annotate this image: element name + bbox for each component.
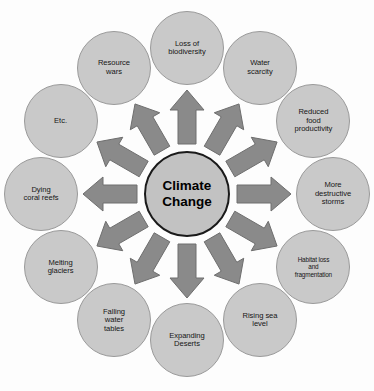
arrow-to-expanding-deserts (170, 244, 204, 298)
node-rising-sea-level[interactable]: Rising sea level (223, 283, 297, 357)
hub-node-label: Climate Change (159, 178, 215, 209)
node-label-expanding-deserts: Expanding Deserts (166, 332, 207, 349)
arrow-to-dying-coral-reefs (83, 177, 137, 211)
arrow-to-more-destructive-storms (237, 177, 291, 211)
node-etc[interactable]: Etc. (24, 84, 98, 158)
arrow-to-reduced-food-productivity (226, 137, 277, 177)
node-reduced-food-productivity[interactable]: Reduced food productivity (276, 84, 350, 158)
node-water-scarcity[interactable]: Water scarcity (223, 31, 297, 105)
node-more-destructive-storms[interactable]: More destructive storms (296, 157, 370, 231)
node-dying-coral-reefs[interactable]: Dying coral reefs (4, 157, 78, 231)
node-loss-of-biodiversity[interactable]: Loss of biodiversity (150, 11, 224, 85)
arrow-to-rising-sea-level (204, 233, 244, 284)
arrow-to-falling-water-tables (130, 233, 170, 284)
arrow-to-melting-glaciers (97, 211, 148, 251)
node-label-more-destructive-storms: More destructive storms (312, 181, 354, 207)
node-label-loss-of-biodiversity: Loss of biodiversity (165, 40, 208, 57)
node-label-habitat-loss-fragmentation: Habitat loss and fragmentation (292, 256, 335, 278)
arrow-to-water-scarcity (204, 104, 244, 155)
hub-node-climate-change[interactable]: Climate Change (144, 151, 230, 237)
node-label-dying-coral-reefs: Dying coral reefs (21, 186, 62, 203)
node-habitat-loss-fragmentation[interactable]: Habitat loss and fragmentation (276, 230, 350, 304)
node-label-falling-water-tables: Falling water tables (100, 308, 128, 334)
node-falling-water-tables[interactable]: Falling water tables (77, 283, 151, 357)
node-melting-glaciers[interactable]: Melting glaciers (24, 230, 98, 304)
node-label-etc: Etc. (51, 117, 70, 126)
arrow-to-habitat-loss-fragmentation (226, 211, 277, 251)
arrow-to-etc (97, 137, 148, 177)
arrow-to-loss-of-biodiversity (170, 90, 204, 144)
node-label-melting-glaciers: Melting glaciers (45, 259, 77, 276)
node-label-water-scarcity: Water scarcity (244, 59, 275, 76)
node-label-reduced-food-productivity: Reduced food productivity (292, 108, 336, 134)
arrow-to-resource-wars (130, 104, 170, 155)
diagram-canvas: Loss of biodiversityWater scarcityReduce… (0, 0, 374, 391)
node-expanding-deserts[interactable]: Expanding Deserts (150, 303, 224, 377)
node-label-rising-sea-level: Rising sea level (240, 312, 281, 329)
node-label-resource-wars: Resource wars (95, 59, 133, 76)
node-resource-wars[interactable]: Resource wars (77, 31, 151, 105)
